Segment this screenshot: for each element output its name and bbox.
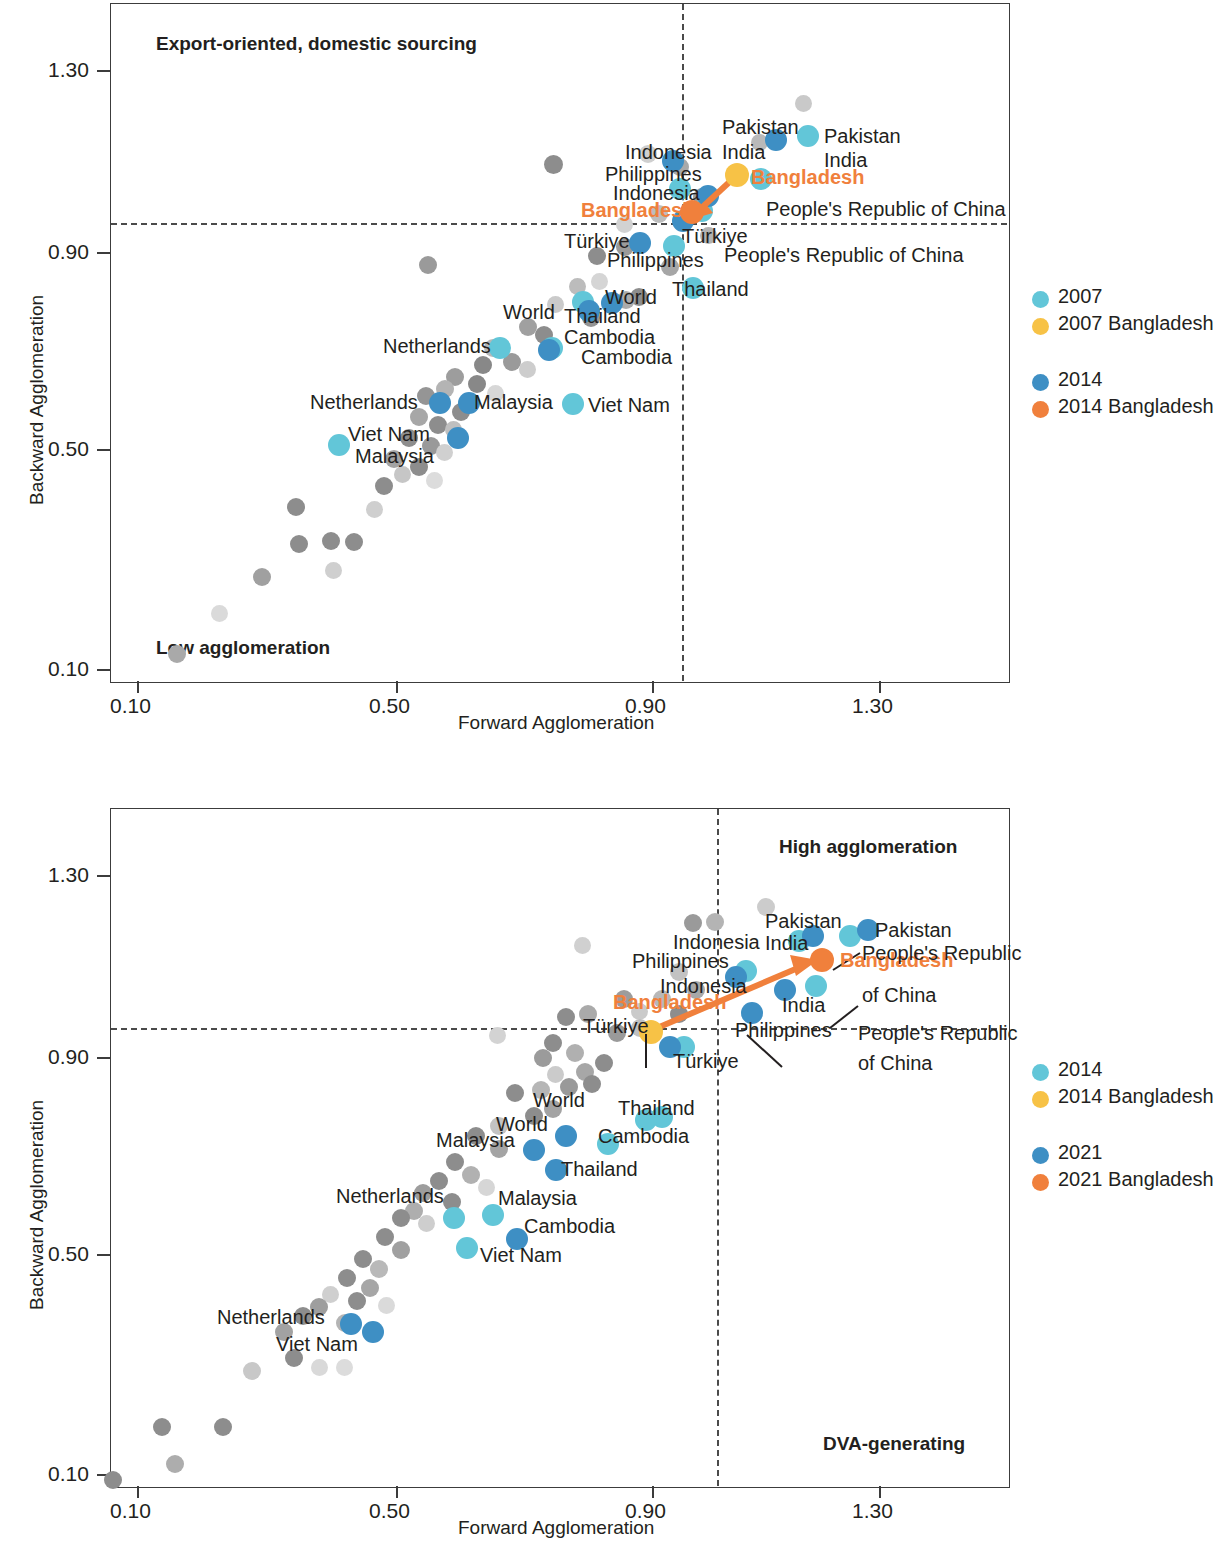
x-tickmark-top-0 <box>137 681 139 693</box>
label-vietnam-2014: Viet Nam <box>348 424 430 444</box>
scatter-dot-other <box>394 466 411 483</box>
reference-line-x-top <box>682 4 684 681</box>
label-turkiye-2014: Türkiye <box>673 1051 739 1071</box>
label-prc-2014: People's Republic of China <box>724 245 964 265</box>
y-tick-bottom-1: 0.90 <box>48 1045 89 1069</box>
label-netherlands-2007: Netherlands <box>383 336 491 356</box>
y-tick-top-3: 0.10 <box>48 657 89 681</box>
scatter-dot-2014 <box>429 392 451 414</box>
label-vietnam-2014: Viet Nam <box>480 1245 562 1265</box>
label-malaysia-2014: Malaysia <box>474 392 553 412</box>
quadrant-label-top-right: High agglomeration <box>779 836 957 858</box>
label-bangladesh-2007: Bangladesh <box>751 167 864 187</box>
legend-swatch-2021-bangladesh <box>1032 1174 1049 1191</box>
y-tick-top-2: 0.50 <box>48 437 89 461</box>
legend-label-2014: 2014 <box>1058 368 1103 391</box>
label-india-2021: India <box>765 933 808 953</box>
scatter-dot-other <box>478 1179 495 1196</box>
plot-area-bottom <box>110 808 1010 1488</box>
x-tickmark-bottom-0 <box>137 1486 139 1498</box>
legend-label-2021-bangladesh: 2021 Bangladesh <box>1058 1168 1214 1191</box>
scatter-dot-other <box>684 914 702 932</box>
x-tick-bottom-0: 0.10 <box>110 1499 151 1523</box>
legend-label-2021: 2021 <box>1058 1141 1103 1164</box>
y-tickmark-bottom-1 <box>97 1057 110 1059</box>
quadrant-label-bottom-right: DVA-generating <box>823 1433 965 1455</box>
x-tick-top-0: 0.10 <box>110 694 151 718</box>
label-thailand-2007: Thailand <box>672 279 749 299</box>
scatter-dot-other <box>338 1269 356 1287</box>
label-indonesia-upper: Indonesia <box>673 932 760 952</box>
label-malaysia-2021: Malaysia <box>436 1130 515 1150</box>
label-prc-2014-line2: of China <box>862 985 937 1005</box>
scatter-dot-2014 <box>447 427 469 449</box>
legend-swatch-2007-bangladesh <box>1032 318 1049 335</box>
y-tickmark-top-3 <box>97 669 110 671</box>
scatter-dot-2007 <box>797 125 819 147</box>
scatter-dot-2007 <box>328 434 350 456</box>
legend-label-2007: 2007 <box>1058 285 1103 308</box>
scatter-dot-other <box>489 1027 506 1044</box>
y-tick-bottom-0: 1.30 <box>48 863 89 887</box>
scatter-dot-2014 <box>538 339 560 361</box>
label-netherlands-2021: Netherlands <box>217 1307 325 1327</box>
y-tickmark-top-1 <box>97 252 110 254</box>
scatter-dot-2021 <box>523 1139 545 1161</box>
scatter-dot-other <box>287 498 305 516</box>
scatter-dot-other <box>426 472 443 489</box>
label-pakistan-2007: Pakistan <box>824 126 901 146</box>
label-world-2014: World <box>533 1090 585 1110</box>
y-tickmark-top-2 <box>97 449 110 451</box>
legend-label-2014-bangladesh: 2014 Bangladesh <box>1058 1085 1214 1108</box>
legend-swatch-2014 <box>1032 1064 1049 1081</box>
x-tick-top-1: 0.50 <box>369 694 410 718</box>
label-bangladesh-2014: Bangladesh <box>581 200 694 220</box>
scatter-dot-other <box>392 1209 410 1227</box>
label-india-2014: India <box>722 142 765 162</box>
label-pakistan-2014: Pakistan <box>875 920 952 940</box>
label-malaysia-2007: Malaysia <box>355 446 434 466</box>
y-tick-top-1: 0.90 <box>48 240 89 264</box>
legend-swatch-2014-bangladesh <box>1032 401 1049 418</box>
label-thailand-left: Thailand <box>564 306 641 326</box>
scatter-dot-other <box>474 356 492 374</box>
scatter-dot-other <box>462 1166 480 1184</box>
y-tick-top-0: 1.30 <box>48 58 89 82</box>
label-philippines-mid: Philippines <box>607 250 704 270</box>
scatter-dot-other <box>557 1008 575 1026</box>
label-netherlands-2014: Netherlands <box>336 1186 444 1206</box>
legend-swatch-2014 <box>1032 374 1049 391</box>
legend-swatch-2021 <box>1032 1147 1049 1164</box>
legend-swatch-2007 <box>1032 291 1049 308</box>
label-thailand-2014: Thailand <box>618 1098 695 1118</box>
scatter-dot-other <box>419 256 437 274</box>
label-prc-2021-line2: of China <box>858 1053 933 1073</box>
label-world-right: World <box>605 287 657 307</box>
label-pakistan-2014: Pakistan <box>722 117 799 137</box>
legend-label-2014-bangladesh: 2014 Bangladesh <box>1058 395 1214 418</box>
scatter-dot-other <box>418 1215 435 1232</box>
scatter-dot-other <box>311 1359 328 1376</box>
x-tick-bottom-1: 0.50 <box>369 1499 410 1523</box>
label-cambodia-2021: Cambodia <box>524 1216 615 1236</box>
scatter-dot-other <box>348 1292 366 1310</box>
scatter-dot-other <box>322 532 340 550</box>
label-vietnam-2007: Viet Nam <box>588 395 670 415</box>
scatter-dot-other <box>214 1418 232 1436</box>
chart-panel-bottom: Backward Agglomeration Forward Agglomera… <box>0 773 1227 1547</box>
label-world-left: World <box>503 302 555 322</box>
scatter-dot-other <box>574 937 591 954</box>
label-cambodia-upper: Cambodia <box>564 327 655 347</box>
scatter-dot-2007 <box>562 393 584 415</box>
scatter-dot-other <box>506 1084 524 1102</box>
reference-line-y-top <box>111 223 1007 225</box>
scatter-dot-other <box>446 1153 464 1171</box>
x-tickmark-top-1 <box>396 681 398 693</box>
label-india-low: India <box>782 995 825 1015</box>
scatter-dot-2021 <box>555 1125 577 1147</box>
scatter-dot-other <box>168 645 186 663</box>
quadrant-label-top-left: Export-oriented, domestic sourcing <box>156 33 477 55</box>
y-tickmark-top-0 <box>97 70 110 72</box>
scatter-dot-other <box>795 95 812 112</box>
scatter-dot-other <box>375 477 393 495</box>
